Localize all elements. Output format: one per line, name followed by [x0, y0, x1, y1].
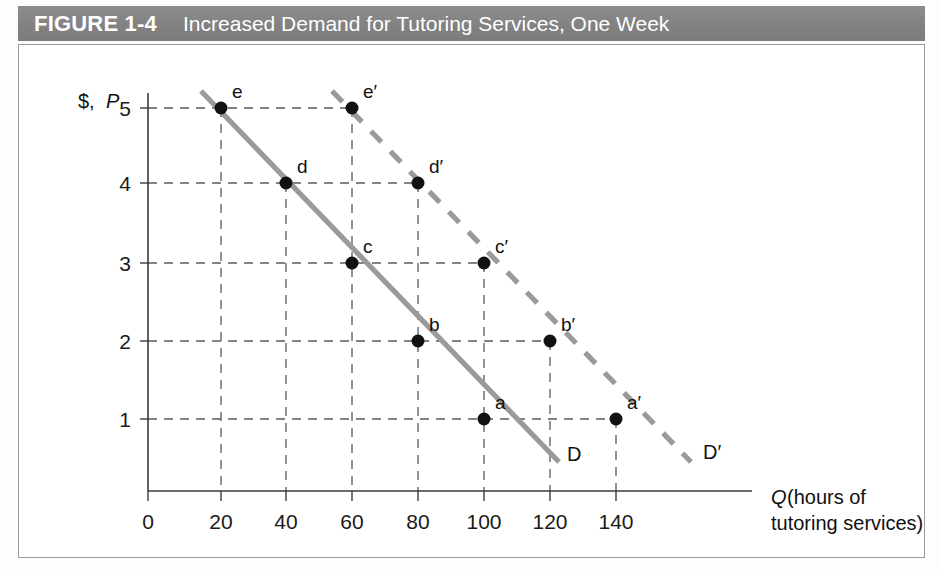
curve-label-D-prime: D′: [703, 441, 721, 463]
grid-guides: [148, 108, 616, 491]
data-point-e: [215, 102, 228, 115]
data-point-label-c-prime: c′: [495, 236, 509, 257]
data-point-e-prime: [346, 102, 359, 115]
data-point-label-d: d: [297, 156, 308, 177]
xtick-label-120: 120: [532, 510, 567, 533]
xtick-label-140: 140: [598, 510, 633, 533]
data-point-a-prime: [610, 413, 623, 426]
ytick-label-3: 3: [119, 252, 131, 275]
axes: [140, 93, 752, 501]
curve-label-D: D: [567, 443, 581, 465]
ytick-label-5: 5: [119, 97, 131, 120]
data-point-d-prime: [412, 177, 425, 190]
data-point-label-a: a: [495, 392, 506, 413]
xtick-label-60: 60: [340, 510, 363, 533]
x-axis-title: Q (hours of tutoring services): [771, 486, 923, 534]
xtick-label-100: 100: [466, 510, 501, 533]
figure-header-banner: FIGURE 1-4 Increased Demand for Tutoring…: [18, 6, 925, 41]
data-point-label-e-prime: e′: [363, 81, 378, 102]
demand-curve-chart: e d c b a e′ d′ c′ b′ a′ D D′ 5 4 3 2 1 …: [19, 45, 924, 557]
ytick-label-2: 2: [119, 330, 131, 353]
data-point-b-prime: [544, 335, 557, 348]
xtick-label-0: 0: [142, 510, 154, 533]
xtick-label-20: 20: [209, 510, 232, 533]
plot-frame: e d c b a e′ d′ c′ b′ a′ D D′ 5 4 3 2 1 …: [18, 44, 925, 558]
data-point-label-c: c: [363, 236, 373, 257]
y-axis-title-currency: $,: [78, 90, 95, 112]
data-point-b: [412, 335, 425, 348]
xtick-label-40: 40: [274, 510, 297, 533]
ytick-label-1: 1: [119, 408, 131, 431]
data-point-label-d-prime: d′: [429, 156, 444, 177]
ytick-label-4: 4: [119, 172, 131, 195]
data-point-label-b: b: [429, 314, 440, 335]
y-axis-title-symbol: P: [106, 90, 120, 112]
data-point-label-e: e: [232, 81, 243, 102]
data-point-a: [478, 413, 491, 426]
figure-number-label: FIGURE 1-4: [34, 11, 157, 37]
data-point-c: [346, 257, 359, 270]
xtick-label-80: 80: [406, 510, 429, 533]
data-point-c-prime: [478, 257, 491, 270]
data-point-label-a-prime: a′: [627, 392, 642, 413]
x-axis-title-symbol: Q: [771, 486, 787, 508]
x-axis-title-line1: (hours of: [787, 486, 866, 508]
x-axis-title-line2: tutoring services): [771, 512, 923, 534]
figure-container: FIGURE 1-4 Increased Demand for Tutoring…: [0, 0, 941, 574]
y-axis-title: $, P: [78, 90, 120, 112]
data-point-d: [280, 177, 293, 190]
data-point-label-b-prime: b′: [561, 314, 576, 335]
figure-title-label: Increased Demand for Tutoring Services, …: [183, 12, 669, 36]
